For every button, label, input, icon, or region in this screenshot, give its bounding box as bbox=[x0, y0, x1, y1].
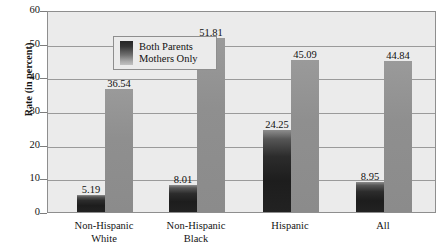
x-axis-label: Hispanic bbox=[240, 220, 340, 233]
bar-both-parents bbox=[169, 185, 197, 212]
bar-both-parents bbox=[77, 195, 105, 212]
x-axis-label: Non-HispanicBlack bbox=[146, 220, 246, 245]
plot-inner: 5.1936.548.0151.8124.2545.098.9544.84 Bo… bbox=[48, 12, 435, 212]
x-axis-label-line: Non-Hispanic bbox=[54, 220, 154, 233]
y-tick-mark bbox=[40, 146, 47, 147]
y-tick-mark bbox=[40, 112, 47, 113]
bar-both-parents bbox=[356, 182, 384, 212]
legend-labels: Both Parents Mothers Only bbox=[139, 41, 198, 66]
y-tick-mark bbox=[40, 11, 47, 12]
gradient-swatch-icon bbox=[120, 41, 133, 65]
y-tick-label: 20 bbox=[10, 139, 40, 150]
y-tick-label: 10 bbox=[10, 172, 40, 183]
y-tick-label: 40 bbox=[10, 71, 40, 82]
bar-both-parents bbox=[263, 130, 291, 212]
plot-area: 5.1936.548.0151.8124.2545.098.9544.84 Bo… bbox=[47, 11, 436, 213]
y-tick-mark bbox=[40, 213, 47, 214]
bar-value-label: 36.54 bbox=[95, 78, 143, 89]
y-tick-mark bbox=[40, 179, 47, 180]
x-axis-label-line: All bbox=[333, 220, 433, 233]
bar-value-label: 44.84 bbox=[374, 50, 422, 61]
y-tick-label: 60 bbox=[10, 4, 40, 15]
x-axis-label: Non-HispanicWhite bbox=[54, 220, 154, 245]
x-axis-label-line: Hispanic bbox=[240, 220, 340, 233]
y-tick-label: 30 bbox=[10, 105, 40, 116]
x-axis-label-line: Black bbox=[146, 233, 246, 246]
bar-value-label: 45.09 bbox=[281, 49, 329, 60]
bar-chart: Rate (in percent) 0102030405060 5.1936.5… bbox=[0, 0, 444, 252]
y-tick-label: 0 bbox=[10, 206, 40, 217]
y-tick-mark bbox=[40, 45, 47, 46]
bar-mothers-only bbox=[105, 89, 133, 212]
y-tick-label: 50 bbox=[10, 38, 40, 49]
bar-mothers-only bbox=[384, 61, 412, 212]
y-tick-mark bbox=[40, 78, 47, 79]
legend: Both Parents Mothers Only bbox=[113, 36, 217, 70]
x-axis-label: All bbox=[333, 220, 433, 233]
x-axis-label-line: Non-Hispanic bbox=[146, 220, 246, 233]
x-axis-label-line: White bbox=[54, 233, 154, 246]
bar-mothers-only bbox=[291, 60, 319, 212]
legend-entry-both-parents: Both Parents bbox=[139, 41, 198, 54]
legend-entry-mothers-only: Mothers Only bbox=[139, 53, 198, 66]
gridline bbox=[48, 46, 435, 47]
